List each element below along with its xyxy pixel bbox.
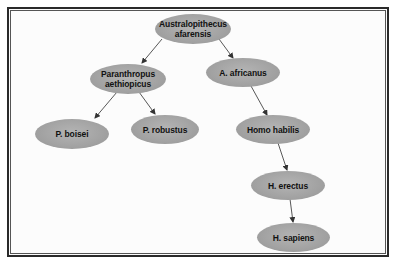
edge-afarensis-africanus bbox=[219, 39, 233, 58]
edge-afarensis-aethiopicus bbox=[142, 39, 162, 63]
edge-aethiopicus-boisei bbox=[95, 92, 117, 118]
edge-erectus-sapiens bbox=[290, 199, 293, 222]
node-label: H. sapiens bbox=[273, 233, 315, 243]
node-label: P. robustus bbox=[143, 125, 188, 135]
node-paranthropus-aethiopicus: Paranthropus aethiopicus bbox=[90, 64, 166, 94]
node-h-erectus: H. erectus bbox=[251, 171, 325, 200]
node-label: A. africanus bbox=[219, 68, 266, 78]
node-h-sapiens: H. sapiens bbox=[257, 223, 330, 252]
edge-aethiopicus-robustus bbox=[139, 92, 155, 114]
edge-africanus-habilis bbox=[251, 86, 267, 115]
node-p-boisei: P. boisei bbox=[35, 119, 109, 149]
node-label: P. boisei bbox=[56, 129, 89, 139]
node-label: Paranthropus aethiopicus bbox=[101, 69, 155, 89]
node-label: Australopithecus afarensis bbox=[159, 19, 227, 39]
node-a-africanus: A. africanus bbox=[206, 58, 280, 87]
edge-habilis-erectus bbox=[278, 143, 287, 170]
node-homo-habilis: Homo habilis bbox=[236, 115, 310, 144]
node-label: H. erectus bbox=[268, 181, 308, 191]
node-label: Homo habilis bbox=[247, 125, 299, 135]
node-australopithecus-afarensis: Australopithecus afarensis bbox=[155, 14, 231, 44]
node-p-robustus: P. robustus bbox=[131, 115, 199, 144]
